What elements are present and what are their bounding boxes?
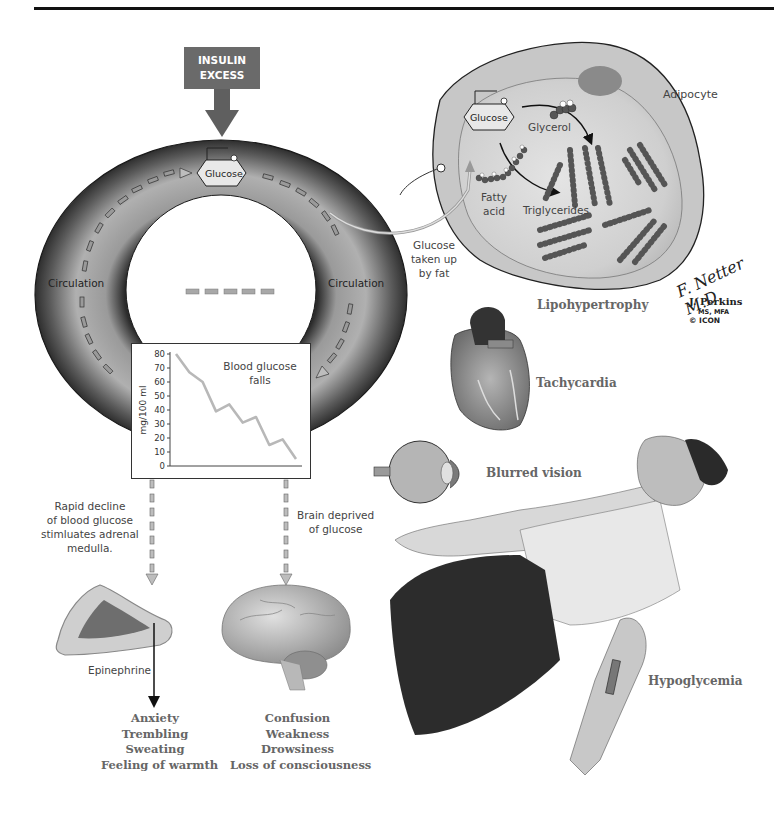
adrenal-symptom: Anxiety (101, 711, 209, 727)
illustration-canvas (0, 0, 774, 817)
fatty-acid-line-1: Fatty (481, 190, 507, 204)
chart-title-line-1: Blood glucose (223, 360, 296, 372)
insulin-line-2: EXCESS (184, 68, 260, 83)
dashed-arrow-brain (280, 480, 292, 585)
brain-symptoms-list: Confusion Weakness Drowsiness Loss of co… (230, 711, 365, 773)
y-tick-label: 40 (154, 405, 165, 415)
adrenal-description: Rapid decline of blood glucose stimluate… (41, 499, 139, 555)
lipohypertrophy-label: Lipohypertrophy (537, 298, 648, 314)
y-tick-label: 30 (154, 419, 165, 429)
insulin-arrow-icon (205, 89, 239, 137)
heart-icon (451, 307, 530, 430)
adrenal-symptom: Trembling (101, 727, 209, 743)
hypoglycemia-label: Hypoglycemia (648, 674, 743, 690)
brain-text-1: Brain deprived (297, 508, 374, 522)
brain-description: Brain deprived of glucose (297, 508, 374, 536)
circulation-right-label: Circulation (328, 276, 384, 290)
y-tick-label: 20 (154, 433, 165, 443)
brain-symptom: Loss of consciousness (230, 758, 365, 774)
glucose-uptake-line-2: taken up (411, 252, 457, 266)
brain-symptom: Drowsiness (230, 742, 365, 758)
glucose-uptake-line-3: by fat (411, 266, 457, 280)
blood-glucose-chart: 01020304050607080mg/100 mlBlood glucosef… (131, 343, 311, 479)
adrenal-symptom: Sweating (101, 742, 209, 758)
adrenal-symptoms-list: Anxiety Trembling Sweating Feeling of wa… (101, 711, 209, 773)
adrenal-text-1: Rapid decline (41, 499, 139, 513)
fatty-acid-label: Fatty acid (481, 190, 507, 218)
tachycardia-label: Tachycardia (536, 376, 617, 392)
y-axis-label: mg/100 ml (138, 386, 148, 435)
y-tick-label: 0 (160, 461, 165, 471)
eye-icon (374, 441, 459, 503)
y-tick-label: 60 (154, 377, 165, 387)
insulin-line-1: INSULIN (184, 53, 260, 68)
torus-glucose-label: Glucose (205, 167, 243, 181)
y-tick-label: 70 (154, 363, 165, 373)
y-tick-label: 80 (154, 349, 165, 359)
artist-degree: MS, MFA (698, 308, 729, 316)
adrenal-text-4: medulla. (41, 541, 139, 555)
circulation-left-label: Circulation (48, 276, 104, 290)
icon-logo: © ICON (689, 316, 720, 326)
brain-symptom: Confusion (230, 711, 365, 727)
glucose-uptake-label: Glucose taken up by fat (411, 238, 457, 280)
adipocyte-label: Adipocyte (663, 88, 718, 102)
artist-name: J. Perkins (689, 295, 742, 309)
center-dashes (186, 289, 274, 294)
adrenal-text-3: stimluates adrenal (41, 527, 139, 541)
insulin-excess-box: INSULIN EXCESS (184, 47, 260, 89)
triglycerides-label: Triglycerides (523, 203, 589, 217)
brain-icon (222, 585, 350, 690)
brain-text-2: of glucose (297, 522, 374, 536)
chart-svg: 01020304050607080mg/100 mlBlood glucosef… (132, 344, 310, 478)
chart-title-line-2: falls (249, 374, 270, 386)
epinephrine-label: Epinephrine (88, 663, 151, 677)
adrenal-text-2: of blood glucose (41, 513, 139, 527)
dashed-arrow-adrenal (146, 480, 158, 585)
y-tick-label: 50 (154, 391, 165, 401)
y-tick-label: 10 (154, 447, 165, 457)
fatty-acid-line-2: acid (481, 204, 507, 218)
glycerol-label: Glycerol (528, 120, 571, 134)
adipocyte-glucose-label: Glucose (470, 111, 508, 125)
brain-symptom: Weakness (230, 727, 365, 743)
glucose-uptake-line-1: Glucose (411, 238, 457, 252)
blurred-vision-label: Blurred vision (486, 466, 582, 482)
adrenal-symptom: Feeling of warmth (101, 758, 209, 774)
